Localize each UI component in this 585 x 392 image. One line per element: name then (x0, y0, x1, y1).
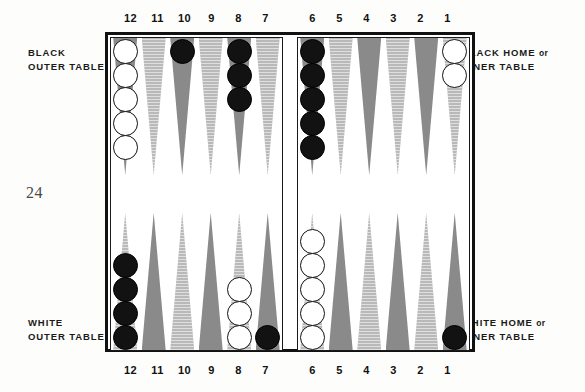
checker-stack-point-12[interactable] (111, 39, 139, 159)
point-11[interactable] (139, 213, 167, 350)
black-checker[interactable] (300, 63, 325, 88)
point-number: 8 (225, 362, 252, 378)
point-number: 10 (171, 10, 198, 26)
white-checker[interactable] (227, 325, 252, 350)
black-checker[interactable] (300, 135, 325, 160)
point-triangle (414, 213, 438, 350)
point-number: 2 (407, 10, 434, 26)
point-9[interactable] (196, 213, 224, 350)
label-white-home-conj: or (536, 318, 545, 328)
point-number: 7 (252, 362, 279, 378)
point-10[interactable] (168, 213, 196, 350)
black-checker[interactable] (113, 325, 138, 350)
checker-stack-point-8[interactable] (225, 277, 253, 349)
checker-stack-point-12[interactable] (111, 253, 139, 349)
point-9[interactable] (196, 38, 224, 175)
label-black-home-conj: or (539, 48, 548, 58)
point-triangle (256, 38, 280, 175)
black-checker[interactable] (300, 87, 325, 112)
black-checker[interactable] (227, 39, 252, 64)
center-bar (285, 35, 295, 349)
checker-stack-point-6[interactable] (298, 229, 326, 349)
point-number: 10 (171, 362, 198, 378)
black-checker[interactable] (255, 325, 280, 350)
point-3[interactable] (383, 38, 411, 175)
point-number: 2 (407, 362, 434, 378)
point-number: 8 (225, 10, 252, 26)
point-5[interactable] (326, 213, 354, 350)
point-triangle (329, 38, 353, 175)
checker-stack-point-7[interactable] (253, 325, 281, 349)
point-number: 9 (198, 362, 225, 378)
white-checker[interactable] (113, 111, 138, 136)
white-checker[interactable] (300, 277, 325, 302)
point-numbers-top-right: 6 5 4 3 2 1 (285, 10, 475, 26)
black-checker[interactable] (227, 63, 252, 88)
point-5[interactable] (326, 38, 354, 175)
point-number: 3 (380, 10, 407, 26)
point-number: 3 (380, 362, 407, 378)
point-7[interactable] (253, 38, 281, 175)
black-checker[interactable] (442, 325, 467, 350)
backgammon-diagram-page: 24 BLACK OUTER TABLE WHITE OUTER TABLE B… (0, 0, 585, 392)
board-half-right (297, 37, 470, 351)
black-checker[interactable] (113, 253, 138, 278)
white-checker[interactable] (442, 39, 467, 64)
black-checker[interactable] (113, 277, 138, 302)
checker-stack-point-10[interactable] (168, 39, 196, 63)
point-number: 12 (117, 362, 144, 378)
point-number: 5 (326, 362, 353, 378)
point-triangle (199, 213, 223, 350)
checker-stack-point-6[interactable] (298, 39, 326, 159)
label-black-outer-line1: BLACK (28, 46, 105, 60)
point-triangle (329, 213, 353, 350)
point-number: 4 (353, 10, 380, 26)
black-checker[interactable] (300, 111, 325, 136)
point-numbers-bottom-right: 6 5 4 3 2 1 (285, 362, 475, 378)
point-3[interactable] (383, 213, 411, 350)
point-triangle (357, 38, 381, 175)
white-checker[interactable] (113, 63, 138, 88)
point-number: 6 (299, 10, 326, 26)
point-number: 5 (326, 10, 353, 26)
point-number: 6 (299, 362, 326, 378)
point-numbers-bottom: 12 11 10 9 8 7 6 5 4 3 2 1 (105, 362, 475, 378)
white-checker[interactable] (227, 301, 252, 326)
point-number: 7 (252, 10, 279, 26)
checker-stack-point-1[interactable] (440, 39, 468, 87)
label-white-outer-line2: OUTER TABLE (28, 330, 105, 344)
point-triangle (199, 38, 223, 175)
white-checker[interactable] (300, 325, 325, 350)
backgammon-board (105, 32, 475, 352)
white-checker[interactable] (113, 39, 138, 64)
point-number: 12 (117, 10, 144, 26)
point-triangle (170, 213, 194, 350)
black-checker[interactable] (170, 39, 195, 64)
white-checker[interactable] (113, 87, 138, 112)
checker-stack-point-8[interactable] (225, 39, 253, 111)
point-numbers-top: 12 11 10 9 8 7 6 5 4 3 2 1 (105, 10, 475, 26)
point-triangle (386, 38, 410, 175)
point-triangle (357, 213, 381, 350)
white-checker[interactable] (227, 277, 252, 302)
point-2[interactable] (412, 213, 440, 350)
black-checker[interactable] (300, 39, 325, 64)
white-checker[interactable] (113, 135, 138, 160)
board-half-left (110, 37, 283, 351)
black-checker[interactable] (113, 301, 138, 326)
white-checker[interactable] (300, 229, 325, 254)
point-2[interactable] (412, 38, 440, 175)
point-4[interactable] (355, 213, 383, 350)
point-number: 1 (434, 362, 461, 378)
white-checker[interactable] (300, 253, 325, 278)
label-black-outer-line2: OUTER TABLE (28, 60, 105, 74)
point-4[interactable] (355, 38, 383, 175)
black-checker[interactable] (227, 87, 252, 112)
checker-stack-point-1[interactable] (440, 325, 468, 349)
point-11[interactable] (139, 38, 167, 175)
point-triangle (142, 38, 166, 175)
white-checker[interactable] (300, 301, 325, 326)
point-triangle (414, 38, 438, 175)
label-white-outer-table: WHITE OUTER TABLE (28, 316, 105, 344)
white-checker[interactable] (442, 63, 467, 88)
